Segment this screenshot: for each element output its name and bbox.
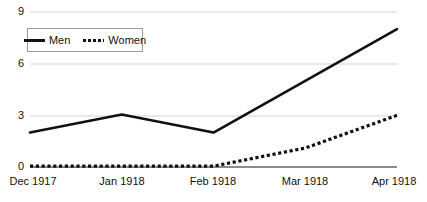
legend-label-women: Women (108, 35, 146, 46)
line-chart: 9 6 3 0 Dec 1917 Jan 1918 Feb 1918 Mar 1… (0, 0, 427, 202)
y-tick-label-9: 9 (2, 6, 24, 17)
chart-legend: Men Women (27, 28, 143, 52)
legend-swatch-solid-line-icon (24, 39, 45, 42)
x-tick-label-apr-1918: Apr 1918 (372, 176, 417, 187)
x-tick-label-feb-1918: Feb 1918 (190, 176, 236, 187)
x-tick-label-jan-1918: Jan 1918 (99, 176, 144, 187)
y-tick-label-6: 6 (2, 58, 24, 69)
legend-swatch-dotted-line-icon (83, 39, 104, 42)
y-tick-label-3: 3 (2, 110, 24, 121)
x-tick-label-mar-1918: Mar 1918 (282, 176, 328, 187)
legend-label-men: Men (49, 35, 70, 46)
y-tick-label-0: 0 (2, 161, 24, 172)
x-tick-label-dec-1917: Dec 1917 (9, 176, 56, 187)
legend-entry-men: Men (24, 35, 70, 46)
legend-entry-women: Women (83, 35, 146, 46)
